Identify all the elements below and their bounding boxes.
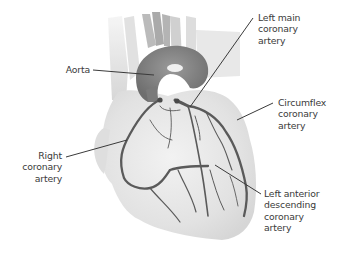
- label-circumflex-coronary-artery: Circumflex coronary artery: [278, 97, 326, 131]
- label-line: artery: [10, 173, 62, 184]
- label-line: artery: [258, 35, 300, 46]
- label-line: Left anterior: [264, 188, 319, 199]
- label-left-main-coronary-artery: Left main coronary artery: [258, 12, 300, 46]
- heart-diagram: Aorta Left main coronary artery Circumfl…: [0, 0, 342, 261]
- label-left-anterior-descending-artery: Left anterior descending coronary artery: [264, 188, 319, 233]
- label-line: Aorta: [56, 64, 90, 75]
- label-line: coronary: [258, 23, 300, 34]
- label-line: coronary: [10, 161, 62, 172]
- heart-body: [102, 90, 256, 240]
- label-aorta: Aorta: [56, 64, 90, 75]
- label-line: descending: [264, 199, 319, 210]
- label-line: artery: [264, 222, 319, 233]
- label-line: Circumflex: [278, 97, 326, 108]
- circumflex-leader: [237, 103, 273, 120]
- label-line: artery: [278, 120, 326, 131]
- label-line: coronary: [278, 108, 326, 119]
- label-line: Right: [10, 150, 62, 161]
- label-right-coronary-artery: Right coronary artery: [10, 150, 62, 184]
- label-line: Left main: [258, 12, 300, 23]
- label-line: coronary: [264, 211, 319, 222]
